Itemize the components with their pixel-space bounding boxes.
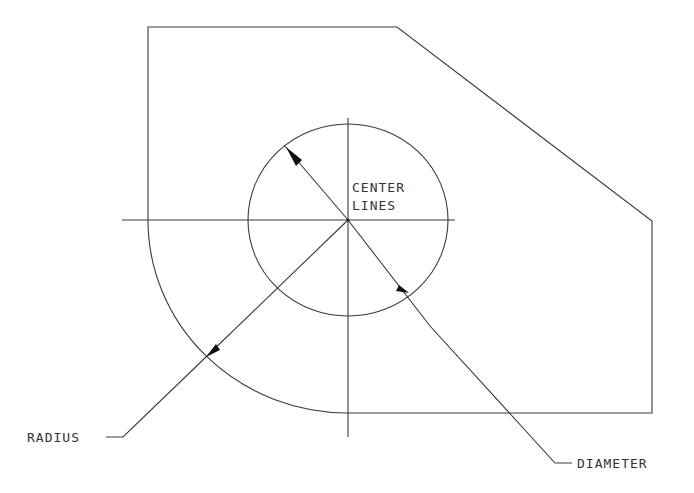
drawing-canvas <box>0 0 694 493</box>
label-diameter: DIAMETER <box>577 457 648 471</box>
label-lines: LINES <box>352 199 396 213</box>
label-center: CENTER <box>352 181 405 195</box>
diameter-arrow-bottom-icon <box>396 285 409 293</box>
center-point <box>346 218 349 221</box>
radius-leader-line <box>106 220 348 437</box>
label-radius: RADIUS <box>27 431 80 445</box>
diameter-leader-line <box>284 145 572 463</box>
